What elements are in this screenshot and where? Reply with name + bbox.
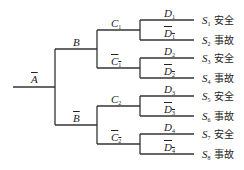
outcome-s1: S1安全 bbox=[202, 15, 234, 27]
event-label-c1: C1 bbox=[111, 18, 121, 30]
outcome-s4: S4事故 bbox=[202, 73, 234, 85]
outcome-s5: S5安全 bbox=[202, 91, 234, 103]
event-label-d2: D2 bbox=[164, 46, 175, 58]
outcome-s6: S6事故 bbox=[202, 111, 234, 123]
event-label-d1: D1 bbox=[164, 8, 175, 20]
outcome-s7: S7安全 bbox=[202, 129, 234, 141]
event-label-d3: D3 bbox=[164, 84, 175, 96]
event-label-d1-bar: D1 bbox=[164, 28, 175, 40]
outcome-s2: S2事故 bbox=[202, 35, 234, 47]
outcome-s8: S8事故 bbox=[202, 149, 234, 161]
event-label-c2: C2 bbox=[111, 94, 121, 106]
event-label-d2-bar: D2 bbox=[164, 66, 175, 78]
event-label-d4-bar: D4 bbox=[164, 142, 175, 154]
outcome-s3: S3安全 bbox=[202, 53, 234, 65]
event-label-b-bar: B bbox=[73, 113, 80, 124]
event-label-d4: D4 bbox=[164, 122, 175, 134]
event-label-c1-bar: C1 bbox=[111, 56, 121, 68]
event-label-c2-bar: C2 bbox=[111, 132, 121, 144]
event-label-a-bar: A bbox=[31, 74, 38, 85]
event-label-b: B bbox=[73, 37, 80, 48]
event-label-d3-bar: D3 bbox=[164, 104, 175, 116]
